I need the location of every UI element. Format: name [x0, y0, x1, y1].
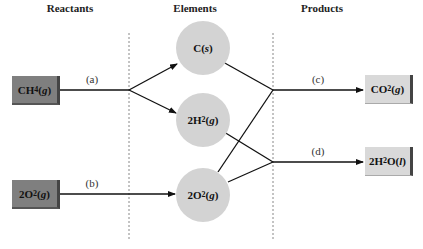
reactant-methane: CH4(g) — [12, 76, 60, 105]
product-carbon-dioxide: CO2(g) — [365, 75, 413, 104]
step-label-d: (d) — [303, 145, 333, 157]
step-label-b: (b) — [77, 177, 107, 189]
arrow-a-to-hydrogen — [129, 90, 176, 113]
element-hydrogen: 2H2(g) — [176, 93, 230, 147]
heading-products: Products — [277, 2, 367, 14]
reaction-pathway-diagram: Reactants Elements Products (a) (b) (c) … — [0, 0, 423, 249]
product-water: 2H2O(l) — [365, 147, 413, 176]
line-oxygen-to-d — [228, 162, 273, 182]
element-oxygen: 2O2(g) — [176, 168, 230, 222]
heading-elements: Elements — [150, 2, 240, 14]
reactant-oxygen: 2O2(g) — [12, 180, 60, 209]
step-label-c: (c) — [303, 73, 333, 85]
element-carbon: C(s) — [176, 21, 230, 75]
line-carbon-to-c — [223, 62, 273, 90]
heading-reactants: Reactants — [25, 2, 115, 14]
line-hydrogen-to-d — [224, 132, 273, 162]
step-label-a: (a) — [77, 73, 107, 85]
arrow-a-to-carbon — [129, 64, 177, 90]
